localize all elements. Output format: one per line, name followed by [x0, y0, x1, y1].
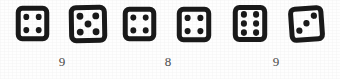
die-pip	[253, 20, 259, 27]
die-pip	[197, 28, 203, 34]
die-pip	[241, 11, 247, 18]
die-face-1	[17, 7, 48, 40]
die-pip	[241, 20, 247, 27]
die-pip	[241, 29, 247, 36]
pair-sum-label-2: 8	[165, 55, 172, 68]
die-pip	[253, 29, 259, 36]
dice-figure: 989	[0, 0, 340, 79]
die-pip	[23, 27, 29, 33]
die-body	[235, 7, 264, 39]
die-pip	[185, 15, 191, 21]
die-pip	[130, 15, 136, 21]
die-face-5	[234, 6, 266, 41]
die-body	[179, 9, 208, 39]
die-body	[125, 9, 154, 38]
die-pip	[36, 27, 42, 33]
pair-sum-label-3: 9	[273, 55, 280, 68]
die-pip	[143, 15, 149, 21]
die-pip	[143, 27, 149, 33]
die-face-2	[70, 6, 107, 43]
die-face-6	[289, 6, 324, 42]
die-body	[18, 8, 47, 38]
die-pip	[197, 15, 203, 21]
die-pip	[23, 14, 29, 20]
die-pip	[36, 14, 42, 20]
die-face-4	[178, 8, 210, 41]
die-pip	[253, 11, 259, 18]
die-pip	[185, 28, 191, 34]
die-face-3	[124, 8, 155, 40]
die-pip	[130, 27, 136, 33]
pair-sum-label-1: 9	[59, 55, 66, 68]
